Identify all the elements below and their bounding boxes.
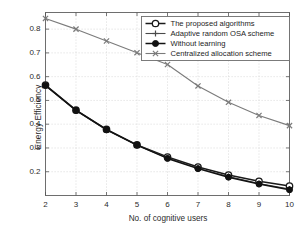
y-tick-label: 0.8 — [15, 24, 41, 33]
x-tick-label: 2 — [36, 200, 56, 209]
y-tick-label: 0.5 — [15, 95, 41, 104]
data-point — [195, 166, 201, 172]
y-tick-label: 0.4 — [15, 119, 41, 128]
x-tick-label: 3 — [66, 200, 86, 209]
x-tick-label: 4 — [97, 200, 117, 209]
data-point — [256, 181, 262, 187]
y-tick-label: 0.2 — [15, 167, 41, 176]
data-point — [104, 127, 110, 133]
legend-marker — [152, 20, 158, 26]
x-tick-label: 8 — [219, 200, 239, 209]
legend-label: Without learning — [171, 39, 226, 48]
x-tick-label: 7 — [188, 200, 208, 209]
data-point — [226, 174, 232, 180]
x-tick-label: 10 — [280, 200, 300, 209]
chart-legend: The proposed algorithmsAdaptive random O… — [142, 17, 290, 61]
data-point — [73, 107, 79, 113]
data-point — [165, 155, 171, 161]
series-0 — [42, 82, 292, 189]
legend-label: Centralized allocation scheme — [171, 49, 272, 58]
y-tick-label: 0.7 — [15, 48, 41, 57]
x-tick-label: 9 — [249, 200, 269, 209]
data-point — [287, 187, 293, 193]
data-point — [256, 113, 261, 118]
legend-marker — [153, 41, 159, 47]
y-tick-label: 0.3 — [15, 143, 41, 152]
legend-label: The proposed algorithms — [171, 19, 255, 28]
data-point — [43, 82, 49, 88]
x-tick-label: 5 — [127, 200, 147, 209]
chart-figure: Energy Efficiency No. of cognitive users… — [0, 0, 302, 234]
legend-label: Adaptive random OSA scheme — [171, 29, 275, 38]
y-tick-label: 0.6 — [15, 72, 41, 81]
data-point — [165, 62, 170, 67]
data-point — [134, 142, 140, 148]
x-tick-label: 6 — [158, 200, 178, 209]
series-2 — [43, 82, 293, 192]
